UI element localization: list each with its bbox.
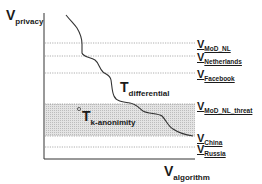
k-anonymity-label: Tk-anonimity <box>82 108 135 124</box>
k-anonymity-label-sub: k-anonimity <box>91 118 136 127</box>
differential-label-main: T <box>120 79 129 95</box>
level-label-sub: MoD_NL_threat <box>204 107 252 114</box>
x-axis-label-main: V <box>164 163 173 179</box>
y-axis-label: Vprivacy <box>6 7 43 23</box>
level-label-sub: Facebook <box>204 75 234 82</box>
y-axis-label-main: V <box>6 7 15 23</box>
level-label-sub: Russia <box>204 150 225 157</box>
level-label-sub: Netherlands <box>204 58 242 65</box>
x-axis-label-sub: algorithm <box>173 173 209 182</box>
level-label-russia: VRussia <box>197 140 226 156</box>
k-anonymity-label-main: T <box>82 108 91 124</box>
y-axis-label-sub: privacy <box>15 17 43 26</box>
level-label-mod-nl-threat: VMoD_NL_threat <box>197 97 252 113</box>
differential-label-sub: differential <box>129 89 170 98</box>
level-label-netherlands: VNetherlands <box>197 48 242 64</box>
level-label-facebook: VFacebook <box>197 65 235 81</box>
x-axis-label: Valgorithm <box>164 163 210 179</box>
differential-curve-label: Tdifferential <box>120 79 169 95</box>
